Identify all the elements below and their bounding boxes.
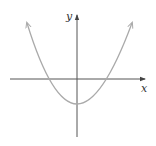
x-axis-label: x — [141, 82, 148, 95]
parabola-curve-left — [27, 23, 77, 104]
graph-canvas: y x — [0, 0, 156, 146]
parabola-graph: y x — [0, 0, 156, 146]
parabola-curve — [77, 23, 132, 104]
y-axis-label: y — [65, 10, 73, 23]
